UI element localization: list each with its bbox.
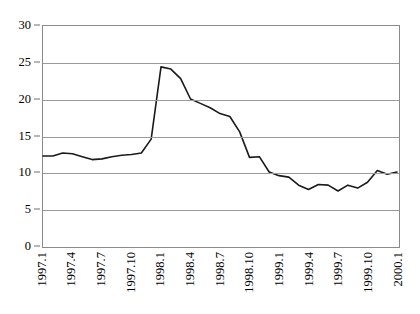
x-tick-label-1998.4: 1998.4 [184,252,197,286]
x-tick-label-1997.7: 1997.7 [95,252,108,286]
x-tick-label-2000.1: 2000.1 [392,252,405,286]
y-tick-mark-15 [34,135,40,136]
x-axis: 1997.11997.41997.71997.101998.11998.4199… [42,252,400,314]
x-tick-label-1997.1: 1997.1 [36,252,49,286]
y-tick-label-30: 30 [19,19,32,32]
x-tick-label-1998.1: 1998.1 [154,252,167,286]
y-tick-mark-30 [34,25,40,26]
y-tick-label-20: 20 [19,92,32,105]
y-tick-mark-25 [34,61,40,62]
y-tick-label-0: 0 [25,240,31,253]
y-axis: 051015202530 [0,25,40,248]
gridline-10 [43,173,399,174]
x-tick-label-1999.1: 1999.1 [273,252,286,286]
x-tick-label-1998.10: 1998.10 [243,252,256,293]
y-tick-mark-10 [34,172,40,173]
gridline-20 [43,100,399,101]
x-tick-label-1997.10: 1997.10 [125,252,138,293]
x-tick-label-1997.4: 1997.4 [65,252,78,286]
y-tick-label-15: 15 [19,129,32,142]
gridline-25 [43,63,399,64]
y-tick-mark-20 [34,98,40,99]
y-tick-mark-0 [34,246,40,247]
x-tick-label-1998.7: 1998.7 [214,252,227,286]
plot-area [42,25,400,248]
y-tick-label-10: 10 [19,166,32,179]
y-tick-label-25: 25 [19,56,32,69]
gridline-5 [43,210,399,211]
x-tick-label-1999.7: 1999.7 [332,252,345,286]
gridline-15 [43,137,399,138]
x-tick-label-1999.4: 1999.4 [303,252,316,286]
y-tick-mark-5 [34,209,40,210]
y-tick-label-5: 5 [25,203,31,216]
line-chart: 051015202530 1997.11997.41997.71997.1019… [0,0,420,314]
x-tick-label-1999.10: 1999.10 [362,252,375,293]
